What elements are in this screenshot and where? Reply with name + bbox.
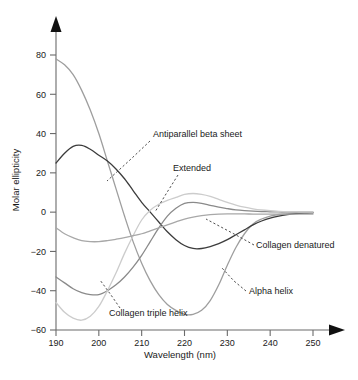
x-tick-label-230: 230 (220, 338, 235, 348)
x-tick-label-250: 250 (305, 338, 320, 348)
x-axis-arrowhead (329, 325, 345, 336)
annotation-label-collagen-triple-helix: Collagen triple helix (109, 308, 188, 318)
annotation-label-extended: Extended (173, 163, 211, 173)
annotation-label-collagen-denatured: Collagen denatured (256, 240, 335, 250)
y-tick-label--60: −60 (31, 325, 46, 335)
leader-alpha-helix (222, 268, 246, 291)
y-tick-group: −60−40−20020406080 (31, 50, 56, 335)
leader-collagen-denatured (206, 219, 254, 245)
x-tick-label-240: 240 (263, 338, 278, 348)
curve-alpha-helix (56, 59, 313, 315)
y-tick-label-80: 80 (36, 50, 46, 60)
curve-collagen-denatured (56, 214, 313, 242)
annotation-label-antiparallel-beta-sheet: Antiparallel beta sheet (153, 129, 243, 139)
x-tick-group: 190200210220230240250 (48, 330, 320, 348)
y-tick-label-40: 40 (36, 129, 46, 139)
x-tick-label-200: 200 (91, 338, 106, 348)
leader-antiparallel-beta-sheet (107, 141, 150, 181)
y-tick-label--40: −40 (31, 286, 46, 296)
molar-ellipticity-chart: −60−40−20020406080 190200210220230240250… (0, 0, 358, 380)
x-tick-label-210: 210 (134, 338, 149, 348)
y-tick-label--20: −20 (31, 247, 46, 257)
cd-spectra-figure: −60−40−20020406080 190200210220230240250… (0, 0, 358, 380)
leader-extended (155, 175, 178, 212)
curve-antiparallel-beta-sheet (56, 145, 313, 249)
y-tick-label-20: 20 (36, 168, 46, 178)
curve-group (56, 59, 313, 320)
x-tick-label-190: 190 (48, 338, 63, 348)
y-tick-label-60: 60 (36, 90, 46, 100)
y-axis-arrowhead (51, 16, 62, 32)
annotation-label-alpha-helix: Alpha helix (249, 286, 294, 296)
y-tick-label-0: 0 (41, 207, 46, 217)
x-tick-label-220: 220 (177, 338, 192, 348)
figure-caption (0, 358, 358, 380)
annotation-group: Antiparallel beta sheetExtendedCollagen … (109, 129, 335, 318)
y-axis-title: Molar ellipticity (10, 149, 21, 212)
